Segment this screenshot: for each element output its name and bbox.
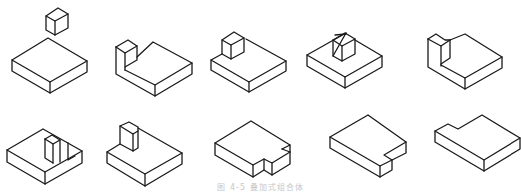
fig-6-slab-with-notched-top — [7, 129, 82, 184]
fig-4-slab-with-center-cube — [307, 33, 382, 88]
isometric-figures — [0, 0, 521, 194]
fig-10-l-slab-with-back-notch — [435, 115, 520, 171]
fig-1-slab-with-floating-cube — [12, 8, 87, 93]
figure-caption: 图 4-5 叠加式组合体 — [0, 183, 521, 193]
fig-9-slab-with-side-notch — [330, 115, 406, 177]
fig-5-slab-with-l-upright — [428, 34, 502, 89]
fig-7-slab-with-back-cube — [107, 122, 182, 186]
fig-2-slab-with-l-upright — [116, 40, 192, 96]
fig-3-slab-with-back-cube — [211, 32, 286, 92]
fig-8-slab-with-front-notch — [215, 121, 290, 177]
